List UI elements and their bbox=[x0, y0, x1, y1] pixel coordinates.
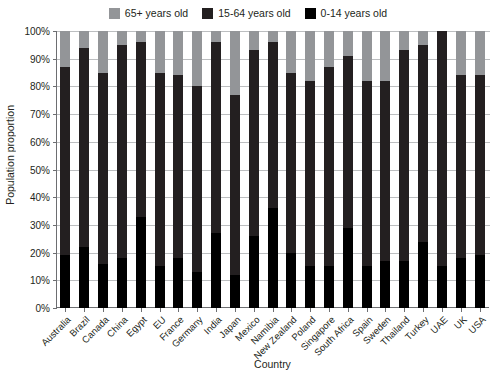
bar-segment-15-64 bbox=[418, 45, 428, 242]
y-axis-tick-label: 0% bbox=[36, 303, 50, 314]
stacked-bar[interactable] bbox=[456, 31, 466, 308]
bar-segment-0-14 bbox=[268, 208, 278, 308]
bar-segment-15-64 bbox=[192, 86, 202, 272]
bar-segment-65-plus bbox=[249, 31, 259, 50]
stacked-bar[interactable] bbox=[399, 31, 409, 308]
bar-slot bbox=[169, 31, 188, 308]
bar-segment-65-plus bbox=[155, 31, 165, 73]
stacked-bar[interactable] bbox=[286, 31, 296, 308]
chart-legend: 65+ years old 15-64 years old 0-14 years… bbox=[0, 8, 496, 19]
x-axis-tick-mark bbox=[254, 308, 255, 312]
stacked-bar[interactable] bbox=[268, 31, 278, 308]
x-axis-tick-mark bbox=[103, 308, 104, 312]
bar-slot bbox=[94, 31, 113, 308]
stacked-bar[interactable] bbox=[136, 31, 146, 308]
legend-label-0-14: 0-14 years old bbox=[321, 8, 388, 19]
bar-segment-0-14 bbox=[117, 258, 127, 308]
bar-segment-0-14 bbox=[380, 261, 390, 308]
x-axis-tick-mark bbox=[329, 308, 330, 312]
bar-segment-65-plus bbox=[324, 31, 334, 67]
stacked-bar[interactable] bbox=[192, 31, 202, 308]
bar-slot bbox=[320, 31, 339, 308]
bar-group bbox=[56, 31, 489, 308]
bar-segment-0-14 bbox=[286, 253, 296, 308]
bar-segment-65-plus bbox=[192, 31, 202, 86]
stacked-bar[interactable] bbox=[230, 31, 240, 308]
bar-segment-0-14 bbox=[418, 242, 428, 308]
bar-slot bbox=[395, 31, 414, 308]
stacked-bar[interactable] bbox=[117, 31, 127, 308]
stacked-bar[interactable] bbox=[173, 31, 183, 308]
bar-segment-65-plus bbox=[60, 31, 70, 67]
stacked-bar[interactable] bbox=[211, 31, 221, 308]
bar-segment-0-14 bbox=[456, 258, 466, 308]
stacked-bar[interactable] bbox=[380, 31, 390, 308]
bar-slot bbox=[301, 31, 320, 308]
bar-slot bbox=[112, 31, 131, 308]
stacked-bar[interactable] bbox=[343, 31, 353, 308]
bar-segment-15-64 bbox=[475, 75, 485, 255]
bar-segment-65-plus bbox=[362, 31, 372, 81]
y-axis-tick-labels: 0%10%20%30%40%50%60%70%80%90%100% bbox=[0, 31, 50, 308]
legend-label-15-64: 15-64 years old bbox=[218, 8, 290, 19]
bar-slot bbox=[75, 31, 94, 308]
stacked-bar[interactable] bbox=[475, 31, 485, 308]
bar-segment-0-14 bbox=[249, 236, 259, 308]
stacked-bar[interactable] bbox=[437, 31, 447, 308]
bar-segment-15-64 bbox=[79, 48, 89, 247]
bar-segment-0-14 bbox=[305, 266, 315, 308]
bar-segment-15-64 bbox=[324, 67, 334, 266]
bar-segment-0-14 bbox=[136, 217, 146, 308]
bar-segment-0-14 bbox=[230, 275, 240, 308]
x-axis-tick-mark bbox=[461, 308, 462, 312]
x-axis-tick-mark bbox=[178, 308, 179, 312]
bar-segment-0-14 bbox=[324, 266, 334, 308]
x-axis-tick-slot: UK bbox=[451, 309, 470, 355]
bar-segment-15-64 bbox=[437, 31, 447, 266]
x-axis-tick-slot: Turkey bbox=[414, 309, 433, 355]
stacked-bar[interactable] bbox=[362, 31, 372, 308]
x-axis-tick-mark bbox=[197, 308, 198, 312]
bar-segment-0-14 bbox=[211, 233, 221, 308]
bar-segment-0-14 bbox=[79, 247, 89, 308]
bar-segment-0-14 bbox=[192, 272, 202, 308]
bar-segment-15-64 bbox=[380, 81, 390, 261]
stacked-bar[interactable] bbox=[324, 31, 334, 308]
bar-segment-65-plus bbox=[286, 31, 296, 73]
bar-slot bbox=[150, 31, 169, 308]
x-axis-tick-slot: USA bbox=[470, 309, 489, 355]
x-axis-tick-mark bbox=[216, 308, 217, 312]
bar-segment-15-64 bbox=[456, 75, 466, 258]
x-axis-tick-mark bbox=[291, 308, 292, 312]
stacked-bar[interactable] bbox=[98, 31, 108, 308]
bar-slot bbox=[207, 31, 226, 308]
bar-segment-0-14 bbox=[437, 266, 447, 308]
y-axis-tick-label: 80% bbox=[30, 81, 50, 92]
bar-segment-15-64 bbox=[286, 73, 296, 253]
x-axis-tick-mark bbox=[122, 308, 123, 312]
stacked-bar[interactable] bbox=[249, 31, 259, 308]
bar-segment-15-64 bbox=[136, 42, 146, 217]
x-axis-title: Country bbox=[56, 358, 489, 370]
stacked-bar[interactable] bbox=[79, 31, 89, 308]
bar-segment-15-64 bbox=[399, 50, 409, 261]
x-axis-tick-mark bbox=[141, 308, 142, 312]
bar-segment-65-plus bbox=[380, 31, 390, 81]
bar-slot bbox=[357, 31, 376, 308]
legend-swatch-65-plus bbox=[109, 8, 120, 19]
bar-segment-15-64 bbox=[98, 73, 108, 264]
bar-slot bbox=[433, 31, 452, 308]
bar-segment-15-64 bbox=[362, 81, 372, 267]
legend-label-65-plus: 65+ years old bbox=[125, 8, 188, 19]
stacked-bar[interactable] bbox=[418, 31, 428, 308]
stacked-bar[interactable] bbox=[155, 31, 165, 308]
bar-slot bbox=[56, 31, 75, 308]
x-axis-tick-mark bbox=[235, 308, 236, 312]
stacked-bar[interactable] bbox=[305, 31, 315, 308]
stacked-bar[interactable] bbox=[60, 31, 70, 308]
y-axis-tick-label: 100% bbox=[24, 26, 50, 37]
x-axis-tick-mark bbox=[273, 308, 274, 312]
bar-segment-0-14 bbox=[98, 264, 108, 308]
y-axis-tick-label: 90% bbox=[30, 53, 50, 64]
stacked-bar-chart: 65+ years old 15-64 years old 0-14 years… bbox=[0, 0, 496, 381]
